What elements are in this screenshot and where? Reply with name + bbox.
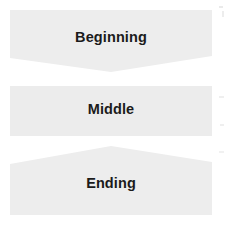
stage-label-ending: Ending: [10, 175, 212, 192]
stage-label-middle: Middle: [10, 101, 212, 118]
scan-artifact-mark: [220, 124, 224, 126]
stage-label-beginning: Beginning: [10, 29, 212, 46]
scan-artifact-mark: [219, 96, 224, 98]
scan-artifact-mark: [222, 11, 224, 17]
diagram-canvas: Beginning Middle Ending: [0, 0, 228, 235]
scan-artifact-mark: [219, 151, 224, 153]
scan-artifact-mark: [219, 6, 223, 8]
